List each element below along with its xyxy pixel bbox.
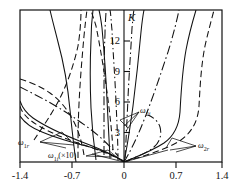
ytick-label-6: 6 [106,97,120,108]
curve-annotation-w1r: ω1r [18,139,29,149]
x-tick-marks [20,162,222,168]
xtick-label-14: 1.4 [215,171,228,182]
xtick-label-zero: 0 [121,171,126,182]
curve-annotation-w1i: ω1i(×10) [48,152,76,162]
plot-frame [20,10,222,162]
xtick-label-neg07: -0.7 [64,171,81,182]
chart-figure: K 12 9 6 3 -1.4 -0.7 0 0.7 1.4 ω1r ω1i(×… [0,0,237,191]
curve-annotation-w2i: ω2i [140,107,150,117]
y-axis-label: K [128,12,135,23]
xtick-label-neg14: -1.4 [12,171,29,182]
ytick-label-9: 9 [106,66,120,77]
ytick-label-12: 12 [106,36,120,47]
xtick-label-07: 0.7 [169,171,182,182]
ytick-label-3: 3 [106,127,120,138]
curve-annotation-w2r: ω2r [198,142,209,152]
